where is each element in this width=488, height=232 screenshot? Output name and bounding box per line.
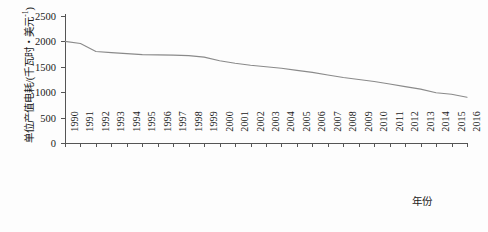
x-axis-tick-mark	[328, 143, 329, 147]
x-axis-tick-mark	[220, 143, 221, 147]
x-axis-tick-mark	[467, 143, 468, 147]
x-axis-tick-label: 1995	[146, 111, 157, 151]
x-axis-tick-mark	[297, 143, 298, 147]
x-axis-tick-label: 2001	[239, 111, 250, 151]
x-axis-tick-mark	[158, 143, 159, 147]
x-axis-tick-mark	[421, 143, 422, 147]
x-axis-tick-mark	[436, 143, 437, 147]
x-axis-tick-mark	[127, 143, 128, 147]
x-axis-tick-label: 1999	[208, 111, 219, 151]
y-axis-tick-mark	[61, 118, 65, 119]
x-axis-tick-label: 1997	[177, 111, 188, 151]
y-axis-title: 单位产值电耗/(千瓦时・美元-1)	[17, 0, 35, 150]
x-axis-tick-mark	[173, 143, 174, 147]
x-axis-tick-label: 2004	[285, 111, 296, 151]
x-axis-tick-label: 1990	[69, 111, 80, 151]
x-axis-tick-label: 2000	[224, 111, 235, 151]
y-axis-tick-label: 1000	[0, 87, 61, 98]
x-axis-tick-label: 2007	[332, 111, 343, 151]
x-axis-tick-label: 2003	[270, 111, 281, 151]
x-axis-tick-label: 2006	[316, 111, 327, 151]
x-axis-tick-mark	[312, 143, 313, 147]
x-axis-tick-mark	[65, 143, 66, 147]
y-axis-tick-mark	[61, 67, 65, 68]
x-axis-tick-mark	[343, 143, 344, 147]
x-axis-tick-label: 2015	[456, 111, 467, 151]
y-axis-tick-label: 0	[0, 138, 61, 149]
x-axis-tick-label: 2016	[471, 111, 482, 151]
x-axis-tick-label: 1994	[131, 111, 142, 151]
y-axis-tick-mark	[61, 41, 65, 42]
x-axis-title: 年份	[412, 193, 432, 208]
y-axis-tick-mark	[61, 92, 65, 93]
x-axis-tick-label: 2013	[425, 111, 436, 151]
x-axis-tick-mark	[204, 143, 205, 147]
y-axis-tick-label: 2500	[0, 11, 61, 22]
x-axis-tick-mark	[359, 143, 360, 147]
x-axis-tick-mark	[189, 143, 190, 147]
x-axis-tick-mark	[390, 143, 391, 147]
x-axis-tick-mark	[235, 143, 236, 147]
y-axis-tick-label: 2000	[0, 36, 61, 47]
y-axis-tick-label: 1500	[0, 61, 61, 72]
x-axis-tick-mark	[80, 143, 81, 147]
x-axis-tick-mark	[405, 143, 406, 147]
x-axis-tick-mark	[281, 143, 282, 147]
x-axis-tick-label: 1998	[193, 111, 204, 151]
y-axis-tick-mark	[61, 16, 65, 17]
x-axis-tick-mark	[111, 143, 112, 147]
x-axis-tick-label: 2010	[378, 111, 389, 151]
x-axis-tick-mark	[374, 143, 375, 147]
x-axis-tick-label: 1991	[84, 111, 95, 151]
x-axis-tick-label: 2014	[440, 111, 451, 151]
x-axis-tick-label: 1993	[115, 111, 126, 151]
x-axis-tick-mark	[266, 143, 267, 147]
x-axis-tick-label: 2005	[301, 111, 312, 151]
x-axis-tick-label: 2008	[347, 111, 358, 151]
chart-figure: 单位产值电耗/(千瓦时・美元-1) 年份 0500100015002000250…	[0, 0, 488, 232]
x-axis-tick-label: 2002	[255, 111, 266, 151]
x-axis-tick-label: 2009	[363, 111, 374, 151]
y-axis-tick-label: 500	[0, 112, 61, 123]
x-axis-tick-mark	[96, 143, 97, 147]
x-axis-tick-label: 1996	[162, 111, 173, 151]
x-axis-tick-mark	[251, 143, 252, 147]
x-axis-tick-mark	[142, 143, 143, 147]
x-axis-tick-label: 1992	[100, 111, 111, 151]
x-axis-tick-mark	[452, 143, 453, 147]
x-axis-tick-label: 2012	[409, 111, 420, 151]
x-axis-tick-label: 2011	[394, 111, 405, 151]
